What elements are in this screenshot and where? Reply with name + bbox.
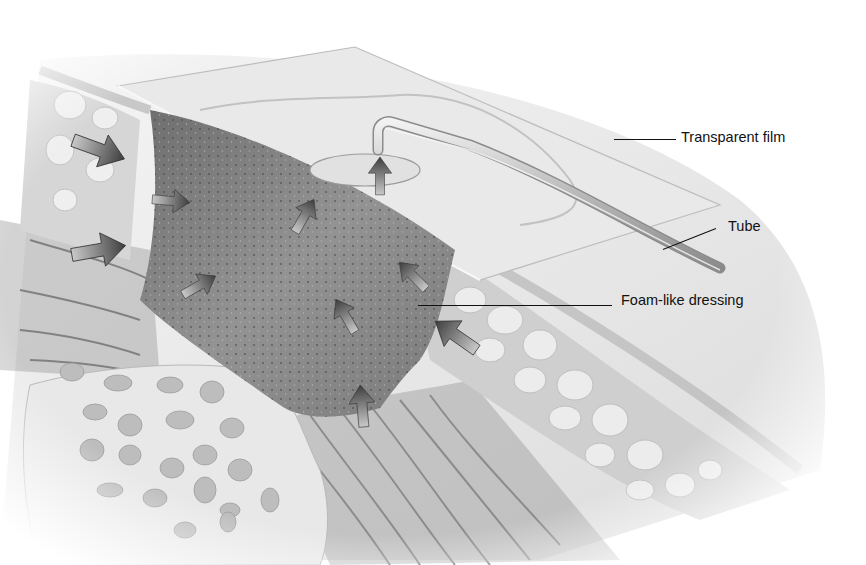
illustration-svg (0, 0, 866, 565)
label-transparent-film: Transparent film (681, 130, 785, 145)
label-foam-like-dressing: Foam-like dressing (621, 293, 744, 308)
label-tube: Tube (728, 219, 761, 234)
leader-line-foam-like-dressing (418, 305, 612, 306)
leader-line-transparent-film (614, 139, 676, 140)
wound-vac-illustration: Transparent film Tube Foam-like dressing (0, 0, 866, 565)
